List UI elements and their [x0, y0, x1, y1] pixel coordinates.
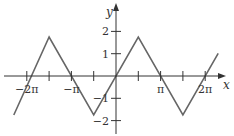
- x-tick-label: −π: [63, 83, 79, 96]
- x-tick-label: −2π: [15, 83, 38, 96]
- x-tick-label: π: [157, 83, 164, 96]
- y-tick-label: 2: [102, 25, 109, 38]
- y-axis-label: y: [105, 5, 113, 19]
- triangle-wave-chart: −2π−ππ2π21−1−2 x y: [0, 0, 234, 136]
- y-axis-arrow-icon: [113, 3, 119, 11]
- x-tick-label: 2π: [198, 83, 212, 96]
- y-tick-label: −2: [93, 115, 109, 128]
- y-tick-label: 1: [102, 48, 109, 61]
- axes-layer: [4, 3, 226, 134]
- x-axis-label: x: [223, 78, 230, 92]
- chart-svg: −2π−ππ2π21−1−2 x y: [0, 0, 234, 136]
- y-tick-label: −1: [93, 92, 109, 105]
